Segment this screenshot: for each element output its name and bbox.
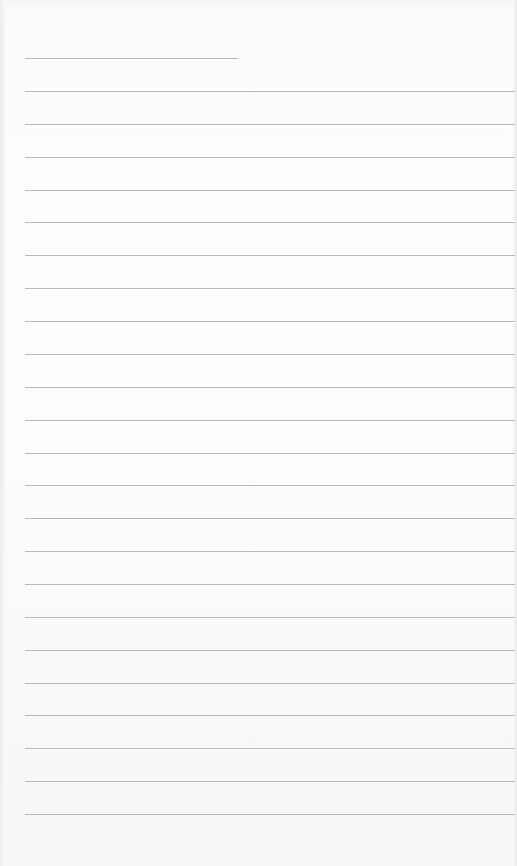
ruled-line — [25, 222, 515, 223]
ruled-line — [25, 584, 515, 585]
ruled-line — [25, 781, 515, 782]
ruled-line — [25, 157, 515, 158]
ruled-line — [25, 124, 515, 125]
ruled-line — [25, 255, 515, 256]
ruled-line — [25, 814, 515, 815]
ruled-line — [25, 288, 515, 289]
ruled-line — [25, 420, 515, 421]
ruled-line — [25, 354, 515, 355]
header-line — [25, 58, 238, 59]
ruled-line — [25, 485, 515, 486]
ruled-line — [25, 551, 515, 552]
ruled-line — [25, 321, 515, 322]
ruled-line — [25, 387, 515, 388]
ruled-line — [25, 683, 515, 684]
ruled-line — [25, 617, 515, 618]
ruled-line — [25, 650, 515, 651]
ruled-line — [25, 518, 515, 519]
ruled-line — [25, 190, 515, 191]
page-edge-left — [0, 0, 6, 866]
ruled-line — [25, 748, 515, 749]
lined-paper-page — [0, 0, 517, 866]
ruled-line — [25, 453, 515, 454]
ruled-line — [25, 715, 515, 716]
ruled-line — [25, 91, 515, 92]
page-edge-right — [513, 0, 517, 866]
